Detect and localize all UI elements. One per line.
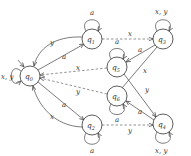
label-loop-q4: x, y — [155, 147, 168, 155]
edge-q1-q0 — [34, 37, 82, 66]
label-q3-q6: x — [143, 67, 147, 75]
label-q0-q2: a — [62, 101, 66, 109]
label-q5-q4: y — [144, 86, 150, 94]
label-q3-q5: a — [138, 46, 142, 54]
initial-arrow — [18, 60, 24, 67]
label-q2-q4: y — [127, 127, 133, 135]
label-q1-q3: x — [128, 30, 132, 38]
state-q0: q0 — [20, 66, 40, 86]
label-q6-q0: y — [75, 88, 81, 96]
state-q4: q4 — [153, 114, 173, 134]
label-q0-q1: a — [62, 53, 66, 61]
state-q1: q1 — [82, 29, 102, 49]
label-loop-q1: a — [90, 9, 94, 17]
label-q1-q0: y — [49, 39, 55, 47]
label-q4-q6: a — [138, 108, 142, 116]
state-q5: q5 — [107, 57, 127, 77]
label-loop-q6: a — [115, 116, 119, 124]
label-loop-q5: a — [115, 38, 119, 46]
edge-q2-q0 — [33, 86, 82, 127]
label-q5-q0: x — [76, 64, 80, 72]
automaton-diagram: q0 q1 q3 q5 q6 q2 q4 x, y a x, y a a a x… — [0, 0, 191, 156]
label-q2-q0: x — [50, 113, 54, 121]
state-q3: q3 — [153, 29, 173, 49]
edge-q5-q0 — [40, 68, 107, 75]
label-loop-q2: a — [90, 147, 94, 155]
label-loop-q3: x, y — [155, 8, 168, 16]
state-q6: q6 — [107, 86, 127, 106]
label-loop-q0: x, y — [1, 73, 14, 81]
state-q2: q2 — [82, 115, 102, 135]
